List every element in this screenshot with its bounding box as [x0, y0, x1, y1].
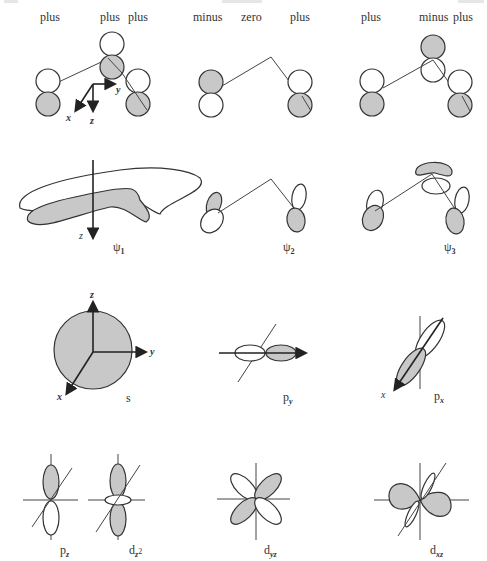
row1-axis-z-label: z — [90, 115, 94, 126]
s-label: s — [126, 391, 131, 406]
row1-panel3 — [360, 35, 472, 117]
psi1-label: ψ1 — [113, 240, 125, 256]
orbital-diagram — [0, 0, 487, 561]
row1-panel1 — [36, 32, 150, 116]
px-axis-x-label: x — [381, 389, 385, 400]
row1-axis-x-label: x — [66, 112, 71, 123]
dxz-label: dxz — [430, 543, 443, 559]
s-axis-y-label: y — [150, 346, 154, 357]
s-axis-z-label: z — [90, 289, 94, 300]
px-orbital — [391, 316, 450, 390]
pz-orbital — [23, 454, 78, 540]
row1-panel2 — [199, 57, 312, 117]
s-orbital — [54, 303, 145, 393]
dz2-label: dz2 — [129, 543, 142, 559]
row1-axis-y-label: y — [116, 84, 120, 95]
py-orbital — [219, 324, 305, 382]
psi3-orbital — [358, 162, 471, 235]
psi2-orbital — [196, 179, 308, 237]
psi2-label: ψ2 — [283, 240, 295, 256]
psi3-label: ψ3 — [444, 240, 456, 256]
psi1-orbital — [19, 160, 201, 237]
s-axis-x-label: x — [57, 391, 62, 402]
py-label: py — [283, 390, 293, 406]
dz2-orbital — [88, 454, 145, 540]
pz-label: pz — [60, 543, 69, 559]
dxz-orbital — [374, 463, 469, 540]
dyz-orbital — [217, 463, 290, 540]
dyz-label: dyz — [264, 543, 277, 559]
psi1-axis-z-label: z — [79, 230, 83, 241]
px-label: px — [434, 389, 444, 405]
